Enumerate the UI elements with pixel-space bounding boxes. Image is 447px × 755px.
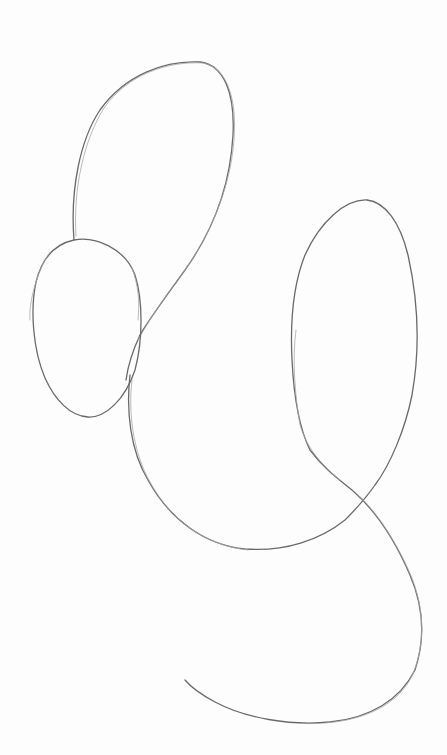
sketch-drawing [0,0,447,755]
lower-swoop-trace [131,330,422,723]
upper-loop-trace [76,63,235,340]
small-left-oval-trace [30,252,139,320]
lower-swoop [129,200,422,723]
small-left-oval [33,239,141,417]
sketch-canvas: Pencil sketch of loose looping curves on… [0,0,447,755]
upper-loop [73,62,233,380]
